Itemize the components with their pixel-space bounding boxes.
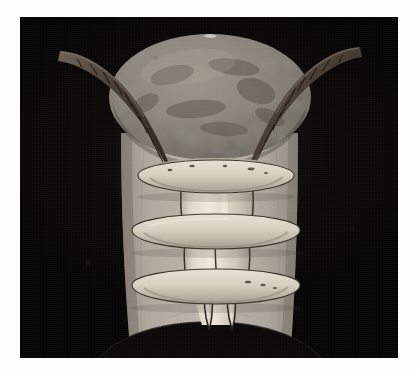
upper-bone-ring — [138, 160, 294, 193]
photograph — [20, 17, 398, 358]
upper-bone-ring-band — [138, 160, 294, 193]
photo-caption — [0, 0, 1, 1]
lower-bone-ring-band — [132, 269, 300, 304]
artifact-illustration — [20, 17, 398, 358]
lower-bone-ring — [132, 269, 300, 304]
photo-frame — [0, 0, 417, 374]
middle-bone-ring — [132, 214, 300, 249]
